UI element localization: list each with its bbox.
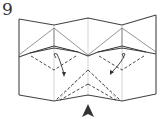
origami-diagram xyxy=(0,0,164,119)
paper-outline xyxy=(19,15,156,101)
valley-folds xyxy=(31,56,144,70)
push-arrow-icon xyxy=(82,104,94,117)
left-squash-fold xyxy=(19,28,88,55)
vertical-creases xyxy=(54,18,122,101)
